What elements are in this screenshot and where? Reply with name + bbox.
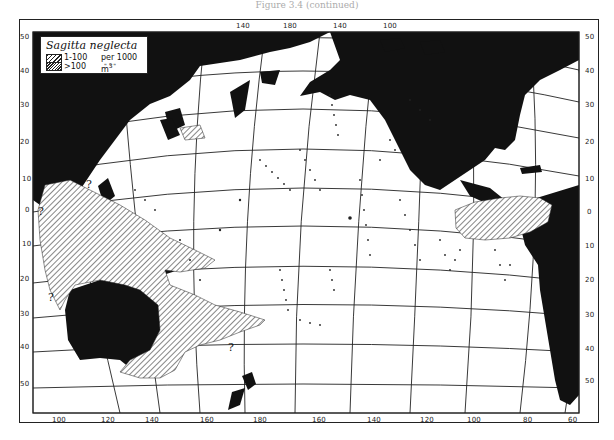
lat-tick-left: 30 [20, 310, 29, 318]
lon-tick-top: 140 [333, 22, 347, 30]
lon-tick-top: 100 [383, 22, 397, 30]
lat-tick-right: 50 [585, 33, 594, 41]
lon-tick-bottom: 160 [200, 416, 214, 424]
lat-tick-right: 20 [585, 138, 594, 146]
lat-tick-left: 50 [20, 380, 29, 388]
lat-tick-right: 40 [585, 67, 594, 75]
lon-tick-bottom: 100 [52, 416, 66, 424]
lat-tick-right: 10 [585, 175, 594, 183]
map-legend: Sagitta neglecta 1-100 >100 per 1000 m3 … [40, 36, 148, 74]
lon-tick-bottom: 160 [312, 416, 326, 424]
lat-tick-left: 40 [20, 67, 29, 75]
lon-tick-bottom: 140 [145, 416, 159, 424]
legend-ditto: " " " [104, 62, 116, 69]
legend-range-low: 1-100 [64, 53, 87, 62]
lon-tick-bottom: 60 [568, 416, 577, 424]
lat-tick-left: 10 [22, 240, 31, 248]
uncertain-marker: ? [38, 205, 44, 218]
lat-tick-right: 50 [585, 377, 594, 385]
lon-tick-top: 180 [283, 22, 297, 30]
uncertain-marker: ? [86, 178, 92, 191]
lat-tick-left: 0 [25, 206, 30, 214]
lon-tick-bottom: 80 [523, 416, 532, 424]
legend-range-high: >100 [64, 62, 86, 71]
dense-hatch-swatch [46, 62, 62, 71]
lat-tick-right: 30 [585, 101, 594, 109]
lon-tick-bottom: 120 [101, 416, 115, 424]
lon-tick-bottom: 120 [420, 416, 434, 424]
uncertain-marker: ? [48, 291, 54, 304]
lon-tick-bottom: 180 [253, 416, 267, 424]
lat-tick-left: 40 [20, 343, 29, 351]
lat-tick-left: 50 [20, 33, 29, 41]
lat-tick-left: 30 [20, 101, 29, 109]
lon-tick-bottom: 140 [367, 416, 381, 424]
uncertain-marker: ? [228, 341, 234, 354]
lat-tick-left: 20 [20, 275, 29, 283]
lat-tick-right: 30 [585, 311, 594, 319]
lat-tick-right: 40 [585, 345, 594, 353]
lon-tick-top: 140 [236, 22, 250, 30]
species-name: Sagitta neglecta [46, 39, 137, 52]
lon-tick-bottom: 100 [467, 416, 481, 424]
lat-tick-left: 10 [22, 175, 31, 183]
lat-tick-left: 20 [20, 138, 29, 146]
lat-tick-right: 20 [585, 276, 594, 284]
lat-tick-right: 10 [585, 242, 594, 250]
lat-tick-right: 0 [587, 208, 592, 216]
